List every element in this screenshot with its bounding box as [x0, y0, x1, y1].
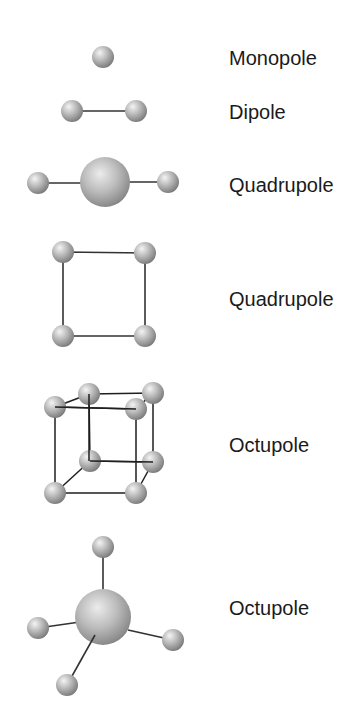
charge-sphere-icon: [125, 100, 147, 122]
monopole-figure: [92, 46, 114, 68]
tetrahedral-octupole-figure: [27, 536, 184, 696]
charge-sphere-icon: [92, 536, 114, 558]
cube-edge: [55, 407, 136, 409]
charge-sphere-icon: [92, 46, 114, 68]
cube-edge: [90, 461, 153, 462]
charge-sphere-icon: [142, 382, 164, 404]
charge-sphere-icon: [125, 482, 147, 504]
square-quadrupole-label: Quadrupole: [229, 288, 334, 310]
linear-quadrupole-figure: [27, 157, 179, 207]
charge-sphere-icon: [61, 100, 83, 122]
charge-sphere-icon: [44, 482, 66, 504]
central-sphere-icon: [80, 157, 130, 207]
charge-sphere-icon: [134, 242, 156, 264]
cube-front-face: [55, 407, 136, 493]
charge-sphere-icon: [27, 172, 49, 194]
charge-sphere-icon: [157, 171, 179, 193]
charge-sphere-icon: [52, 241, 74, 263]
linear-quadrupole-label: Quadrupole: [229, 174, 334, 196]
charge-sphere-icon: [162, 629, 184, 651]
central-sphere-icon: [75, 589, 131, 645]
square-edges: [63, 252, 145, 336]
charge-sphere-icon: [134, 325, 156, 347]
dipole-figure: [61, 100, 147, 122]
charge-sphere-icon: [27, 617, 49, 639]
tetrahedral-octupole-label: Octupole: [229, 597, 309, 619]
monopole-label: Monopole: [229, 47, 317, 69]
charge-sphere-icon: [52, 325, 74, 347]
cubic-octupole-figure: [44, 382, 164, 504]
charge-sphere-icon: [56, 674, 78, 696]
dipole-label: Dipole: [229, 101, 286, 123]
multipole-diagram: Monopole Dipole Quadrupole Quadrupole: [0, 0, 363, 710]
cubic-octupole-label: Octupole: [229, 434, 309, 456]
square-quadrupole-figure: [52, 241, 156, 347]
